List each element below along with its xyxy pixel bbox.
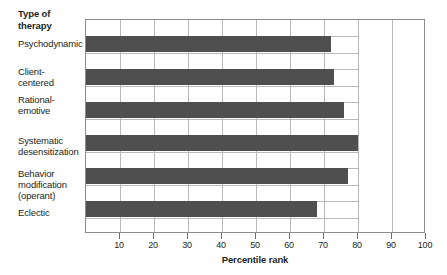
x-tick-100 — [425, 233, 426, 239]
category-label-client-centered: Client- centered — [18, 67, 84, 89]
horizontal-gridline — [86, 152, 358, 153]
category-label-line: emotive — [18, 106, 84, 117]
x-tick-label-100: 100 — [410, 240, 440, 250]
x-tick-60 — [289, 233, 290, 239]
x-tick-label-70: 70 — [308, 240, 338, 250]
category-label-eclectic: Eclectic — [18, 208, 84, 219]
vertical-gridline-90 — [392, 20, 393, 232]
bar-2 — [86, 102, 344, 118]
x-tick-20 — [153, 233, 154, 239]
plot-area — [85, 19, 425, 233]
x-tick-label-20: 20 — [138, 240, 168, 250]
x-tick-label-90: 90 — [376, 240, 406, 250]
x-tick-label-50: 50 — [240, 240, 270, 250]
x-tick-10 — [119, 233, 120, 239]
category-label-behavior-modification: Behavior modification (operant) — [18, 169, 84, 201]
x-tick-70 — [323, 233, 324, 239]
bar-3 — [86, 135, 358, 151]
percentile-rank-bar-chart: Type of therapy Psychodynamic Client- ce… — [0, 0, 447, 275]
x-tick-label-10: 10 — [104, 240, 134, 250]
horizontal-gridline — [86, 185, 358, 186]
x-axis-title: Percentile rank — [85, 254, 425, 265]
category-label-line: Eclectic — [18, 208, 84, 219]
y-axis-title-line-2: therapy — [18, 20, 84, 32]
horizontal-gridline — [86, 218, 358, 219]
x-tick-label-40: 40 — [206, 240, 236, 250]
bar-1 — [86, 69, 334, 85]
bar-5 — [86, 201, 317, 217]
x-tick-label-60: 60 — [274, 240, 304, 250]
bar-0 — [86, 36, 331, 52]
bar-4 — [86, 168, 348, 184]
x-tick-label-80: 80 — [342, 240, 372, 250]
x-tick-50 — [255, 233, 256, 239]
category-label-line: desensitization — [18, 147, 84, 158]
category-label-psychodynamic: Psychodynamic — [18, 39, 84, 50]
y-axis-title-line-1: Type of — [18, 8, 84, 20]
horizontal-gridline — [86, 53, 358, 54]
horizontal-gridline — [86, 119, 358, 120]
vertical-gridline-80 — [358, 20, 359, 232]
x-tick-80 — [357, 233, 358, 239]
category-label-line: centered — [18, 78, 84, 89]
category-label-line: Psychodynamic — [18, 39, 84, 50]
x-tick-label-30: 30 — [172, 240, 202, 250]
x-tick-90 — [391, 233, 392, 239]
y-axis-title: Type of therapy — [18, 8, 84, 31]
category-label-line: modification — [18, 180, 84, 191]
x-tick-40 — [221, 233, 222, 239]
x-tick-30 — [187, 233, 188, 239]
category-label-line: (operant) — [18, 191, 84, 202]
category-label-rational-emotive: Rational- emotive — [18, 95, 84, 117]
category-label-systematic-desensitization: Systematic desensitization — [18, 136, 84, 158]
horizontal-gridline — [86, 86, 358, 87]
